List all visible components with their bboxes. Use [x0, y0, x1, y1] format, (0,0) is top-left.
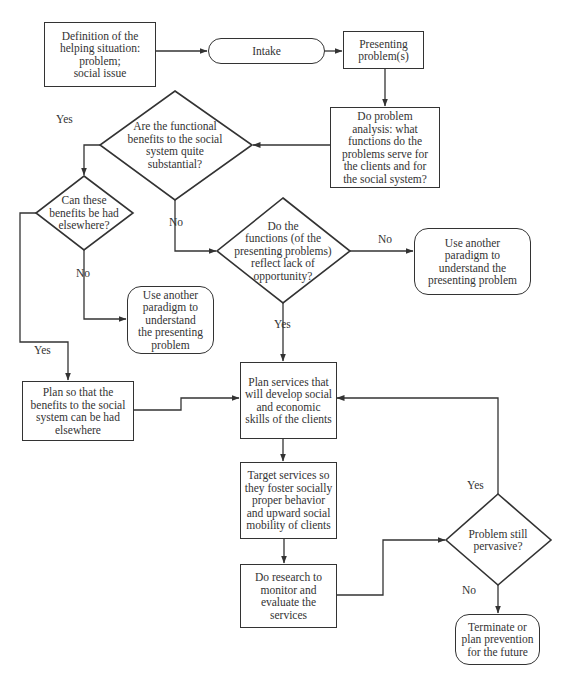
- node-paradigm-left-text: Use another paradigm to understand the p…: [138, 289, 203, 352]
- label-elsewhere-no: No: [76, 267, 90, 279]
- node-terminate: Terminate or plan prevention for the fut…: [455, 614, 540, 665]
- node-paradigm-left: Use another paradigm to understand the p…: [127, 286, 214, 354]
- node-definition-text: Definition of the helping situation: pro…: [60, 30, 140, 80]
- node-analysis-text: Do problem analysis: what functions do t…: [342, 110, 428, 185]
- label-pervasive-no: No: [462, 584, 476, 596]
- diamond-opportunity-text: Do the functions (of the presenting prob…: [234, 220, 331, 283]
- diamond-pervasive-text: Problem still pervasive?: [468, 528, 527, 553]
- node-plan-services-text: Plan services that will develop social a…: [245, 376, 332, 426]
- edge-research-pervasive: [337, 540, 445, 595]
- node-paradigm-right-text: Use another paradigm to understand the p…: [428, 237, 517, 287]
- edge-planelsewhere-planservices: [134, 398, 239, 410]
- node-analysis: Do problem analysis: what functions do t…: [330, 107, 440, 188]
- edge-substantial-yes: [84, 145, 100, 175]
- diamond-substantial: Are the functional benefits to the socia…: [110, 115, 240, 175]
- node-definition: Definition of the helping situation: pro…: [44, 22, 156, 87]
- node-plan-elsewhere-text: Plan so that the benefits to the social …: [31, 386, 126, 436]
- node-presenting: Presenting problem(s): [343, 31, 424, 69]
- node-terminate-text: Terminate or plan prevention for the fut…: [462, 621, 534, 659]
- diamond-elsewhere: Can these benefits be had elsewhere?: [40, 193, 128, 233]
- edge-elsewhere-no: [84, 250, 126, 319]
- node-presenting-text: Presenting problem(s): [358, 38, 408, 63]
- node-plan-services: Plan services that will develop social a…: [240, 362, 337, 439]
- diamond-opportunity: Do the functions (of the presenting prob…: [220, 218, 346, 284]
- label-pervasive-yes: Yes: [467, 479, 484, 491]
- label-opportunity-yes: Yes: [274, 318, 291, 330]
- diamond-pervasive: Problem still pervasive?: [455, 524, 541, 556]
- node-paradigm-right: Use another paradigm to understand the p…: [414, 228, 531, 295]
- label-elsewhere-yes: Yes: [34, 344, 51, 356]
- node-target-services: Target services so they foster socially …: [240, 462, 337, 539]
- node-target-services-text: Target services so they foster socially …: [245, 469, 333, 532]
- node-plan-elsewhere: Plan so that the benefits to the social …: [22, 381, 134, 441]
- label-substantial-no: No: [169, 216, 183, 228]
- node-intake-text: Intake: [252, 45, 281, 58]
- node-research-text: Do research to monitor and evaluate the …: [255, 571, 322, 621]
- diamond-substantial-text: Are the functional benefits to the socia…: [128, 120, 223, 170]
- diamond-elsewhere-text: Can these benefits be had elsewhere?: [49, 194, 119, 232]
- label-substantial-yes: Yes: [56, 113, 73, 125]
- label-opportunity-no: No: [378, 233, 392, 245]
- node-research: Do research to monitor and evaluate the …: [240, 564, 337, 628]
- node-intake: Intake: [208, 38, 325, 64]
